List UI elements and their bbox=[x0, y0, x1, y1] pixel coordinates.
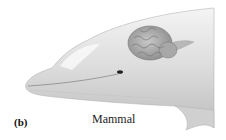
flipper bbox=[175, 106, 214, 130]
panel-label: (b) bbox=[14, 116, 27, 128]
caption: Mammal bbox=[92, 112, 135, 127]
eye bbox=[117, 70, 123, 74]
figure: (b) Mammal bbox=[0, 0, 226, 140]
